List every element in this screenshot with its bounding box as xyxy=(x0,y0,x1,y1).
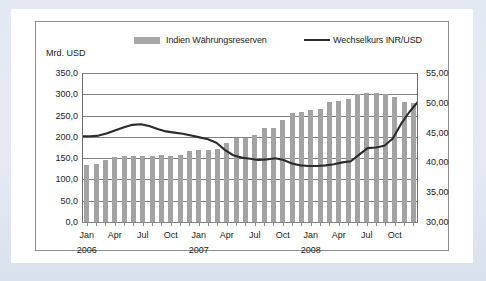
legend-bar-swatch-icon xyxy=(134,37,160,44)
legend-line-swatch-icon xyxy=(304,39,330,41)
y-axis-right-tick-label: 30,00 xyxy=(426,217,449,227)
x-axis-tick xyxy=(143,222,144,226)
x-axis-tick xyxy=(273,222,274,226)
x-axis-tick xyxy=(357,222,358,226)
x-axis-tick xyxy=(133,222,134,226)
x-axis-month-label: Jul xyxy=(249,230,261,240)
x-axis-month-label: Apr xyxy=(108,230,122,240)
legend-bars-label: Indien Währungsreserven xyxy=(166,35,267,45)
x-axis-tick xyxy=(105,222,106,226)
x-axis-tick xyxy=(329,222,330,226)
y-axis-right-tick-label: 55,00 xyxy=(426,68,449,78)
x-axis-month-label: Apr xyxy=(332,230,346,240)
legend-item-bars: Indien Währungsreserven xyxy=(134,32,267,48)
plot-area xyxy=(82,73,418,222)
y-axis-left-ticks: 0,050,0100,0150,0200,0250,0300,0350,0 xyxy=(44,73,78,222)
x-axis-tick xyxy=(292,222,293,226)
x-axis-tick xyxy=(115,222,116,226)
x-axis-month-label: Apr xyxy=(220,230,234,240)
chart-frame: Indien Währungsreserven Wechselkurs INR/… xyxy=(35,21,449,251)
x-axis-month-label: Jan xyxy=(79,230,94,240)
x-axis-tick xyxy=(367,222,368,226)
y-axis-left-tick-label: 0,0 xyxy=(65,217,78,227)
y-axis-left-line xyxy=(82,73,83,222)
x-axis-month-label: Jan xyxy=(303,230,318,240)
x-axis-labels: Jan2006AprJulOctJan2007AprJulOctJan2008A… xyxy=(82,230,418,264)
x-axis-tick xyxy=(395,222,396,226)
y-axis-title: Mrd. USD xyxy=(46,48,86,58)
y-axis-right-ticks: 30,0035,0040,0045,0050,0055,00 xyxy=(426,73,470,222)
x-axis-tick xyxy=(376,222,377,226)
x-axis-month-label: Oct xyxy=(164,230,178,240)
chart-card: Indien Währungsreserven Wechselkurs INR/… xyxy=(11,9,473,263)
chart-legend: Indien Währungsreserven Wechselkurs INR/… xyxy=(36,32,448,48)
x-axis-tick xyxy=(124,222,125,226)
y-axis-right-line xyxy=(417,73,418,222)
chart-screenshot: Indien Währungsreserven Wechselkurs INR/… xyxy=(0,0,486,281)
x-axis-tick xyxy=(311,222,312,226)
x-axis-tick xyxy=(413,222,414,226)
y-axis-right-tick-label: 50,00 xyxy=(426,98,449,108)
y-axis-left-tick-label: 150,0 xyxy=(55,153,78,163)
y-axis-right-tick-label: 40,00 xyxy=(426,157,449,167)
x-axis-month-label: Jul xyxy=(361,230,373,240)
y-axis-left-tick-label: 350,0 xyxy=(55,68,78,78)
x-axis-tick xyxy=(227,222,228,226)
x-axis-tick xyxy=(199,222,200,226)
x-axis-tick xyxy=(339,222,340,226)
y-axis-left-tick-label: 50,0 xyxy=(60,196,78,206)
x-axis-month-label: Oct xyxy=(388,230,402,240)
y-axis-right-tick-label: 45,00 xyxy=(426,128,449,138)
x-axis-tick xyxy=(171,222,172,226)
y-axis-left-tick-label: 300,0 xyxy=(55,89,78,99)
legend-line-label: Wechselkurs INR/USD xyxy=(333,35,422,45)
x-axis-tick xyxy=(87,222,88,226)
x-axis-tick xyxy=(236,222,237,226)
x-axis-tick xyxy=(320,222,321,226)
x-axis-tick xyxy=(189,222,190,226)
x-axis-tick xyxy=(283,222,284,226)
x-axis-tick xyxy=(255,222,256,226)
x-axis-tick xyxy=(264,222,265,226)
x-axis-tick xyxy=(404,222,405,226)
x-axis-month-label: Jul xyxy=(137,230,149,240)
y-axis-left-tick-label: 250,0 xyxy=(55,111,78,121)
x-axis-month-label: Oct xyxy=(276,230,290,240)
x-axis-year-label: 2008 xyxy=(301,245,321,255)
x-axis-tick xyxy=(217,222,218,226)
y-axis-left-tick-label: 100,0 xyxy=(55,174,78,184)
x-axis-tick xyxy=(348,222,349,226)
x-axis-ticks xyxy=(82,222,418,227)
x-axis-tick xyxy=(245,222,246,226)
y-axis-right-tick-label: 35,00 xyxy=(426,187,449,197)
x-axis-tick xyxy=(301,222,302,226)
x-axis-tick xyxy=(152,222,153,226)
x-axis-month-label: Jan xyxy=(191,230,206,240)
x-axis-tick xyxy=(180,222,181,226)
x-axis-tick xyxy=(208,222,209,226)
legend-item-line: Wechselkurs INR/USD xyxy=(304,32,422,48)
exchange-rate-line xyxy=(82,73,418,222)
line-series-layer xyxy=(82,73,418,222)
x-axis-tick xyxy=(385,222,386,226)
x-axis-tick xyxy=(161,222,162,226)
y-axis-left-tick-label: 200,0 xyxy=(55,132,78,142)
x-axis-year-label: 2007 xyxy=(189,245,209,255)
x-axis-year-label: 2006 xyxy=(77,245,97,255)
x-axis-tick xyxy=(96,222,97,226)
